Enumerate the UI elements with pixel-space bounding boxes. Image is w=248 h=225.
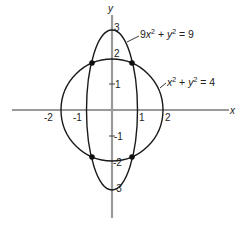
y-tick-label-neg2: -2 bbox=[113, 157, 122, 168]
y-tick-label-neg3: -3 bbox=[113, 183, 122, 194]
y-tick-label-3: 3 bbox=[114, 22, 120, 33]
y-axis-label: y bbox=[107, 3, 114, 14]
intersection-point-q4 bbox=[129, 154, 135, 160]
circle-leader-line bbox=[160, 83, 166, 88]
x-tick-label-1: 1 bbox=[139, 112, 145, 123]
intersection-point-q3 bbox=[89, 154, 95, 160]
y-tick-label-neg1: -1 bbox=[114, 131, 123, 142]
ellipse-leader-line bbox=[127, 36, 139, 42]
y-tick-label-1: 1 bbox=[115, 79, 121, 90]
graph-figure: x y -2 -1 1 2 3 2 1 -1 -2 -3 9x2 + y2 = … bbox=[0, 0, 248, 225]
x-tick-label-neg2: -2 bbox=[44, 112, 53, 123]
y-tick-label-2: 2 bbox=[114, 48, 120, 59]
ellipse-equation-label: 9x2 + y2 = 9 bbox=[140, 28, 194, 40]
x-tick-label-neg1: -1 bbox=[73, 112, 82, 123]
intersection-point-q2 bbox=[89, 60, 95, 66]
x-axis-label: x bbox=[229, 105, 236, 116]
intersection-point-q1 bbox=[129, 60, 135, 66]
circle-equation-label: x2 + y2 = 4 bbox=[166, 76, 215, 88]
x-tick-label-2: 2 bbox=[165, 112, 171, 123]
